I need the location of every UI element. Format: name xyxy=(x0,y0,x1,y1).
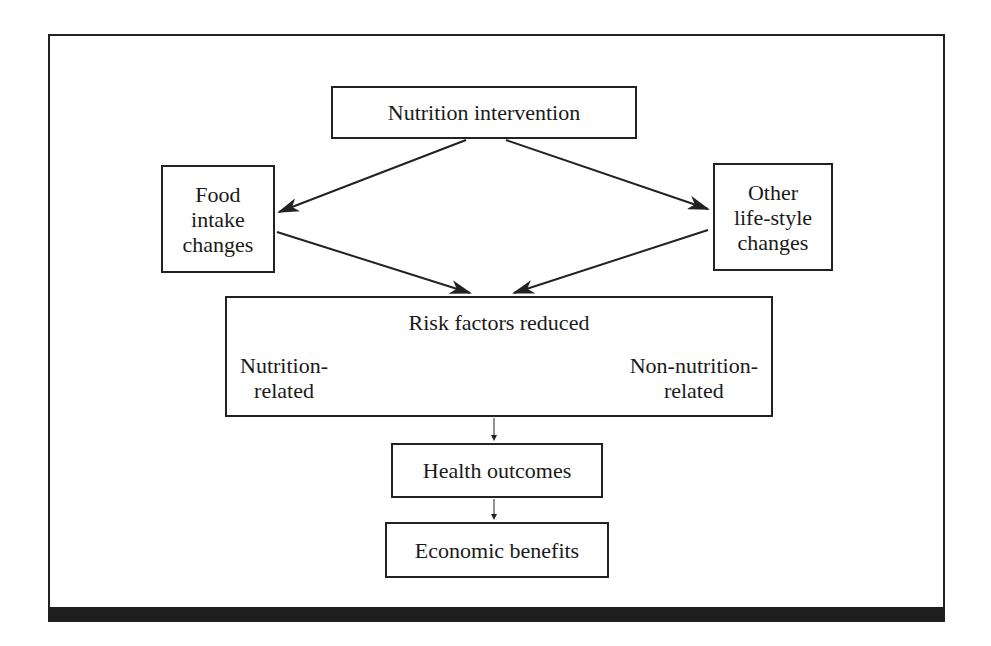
node-label-line: Food xyxy=(183,182,254,207)
label-line: related xyxy=(240,378,328,403)
risk-nutrition-related: Nutrition- related xyxy=(240,353,328,403)
node-label: Economic benefits xyxy=(415,538,579,563)
risk-non-nutrition-related: Non-nutrition- related xyxy=(630,353,758,403)
node-label-line: Other xyxy=(734,180,812,205)
node-nutrition-intervention: Nutrition intervention xyxy=(331,86,637,139)
node-label-line: changes xyxy=(734,230,812,255)
node-label: Nutrition intervention xyxy=(388,100,580,125)
node-other-lifestyle-changes: Other life-style changes xyxy=(713,163,833,271)
node-label-line: changes xyxy=(183,232,254,257)
node-food-intake-changes: Food intake changes xyxy=(161,165,275,273)
node-health-outcomes: Health outcomes xyxy=(391,443,603,498)
node-label-line: intake xyxy=(183,207,254,232)
risk-factors-title: Risk factors reduced xyxy=(227,310,771,335)
frame-bottom-bar xyxy=(48,607,945,622)
label-line: Nutrition- xyxy=(240,353,328,378)
node-label-line: life-style xyxy=(734,205,812,230)
node-economic-benefits: Economic benefits xyxy=(385,522,609,578)
node-label: Health outcomes xyxy=(423,458,571,483)
label-line: related xyxy=(630,378,758,403)
label-line: Non-nutrition- xyxy=(630,353,758,378)
node-risk-factors-reduced: Risk factors reduced Nutrition- related … xyxy=(225,296,773,417)
